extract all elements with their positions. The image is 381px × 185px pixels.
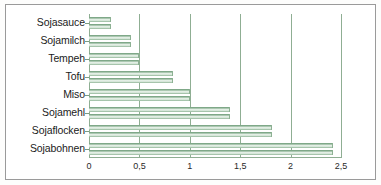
- category-label-sojamilch: Sojamilch: [40, 34, 85, 46]
- bar-tofu: [89, 71, 173, 76]
- x-tick-label-0-5: 0,5: [133, 161, 146, 171]
- x-axis-baseline: [89, 157, 341, 158]
- bar-miso: [89, 89, 190, 94]
- category-label-miso: Miso: [63, 88, 85, 100]
- category-label-tempeh: Tempeh: [48, 52, 85, 64]
- bar-miso: [89, 96, 190, 101]
- category-label-sojabohnen: Sojabohnen: [30, 142, 85, 154]
- bar-sojaflocken: [89, 125, 272, 130]
- category-label-tofu: Tofu: [66, 70, 85, 82]
- gridline-2-5: [341, 14, 342, 158]
- bar-sojamehl: [89, 114, 230, 119]
- bar-sojamilch: [89, 42, 131, 47]
- bar-sojamehl: [89, 107, 230, 112]
- bar-tempeh: [89, 60, 139, 65]
- category-label-sojaflocken: Sojaflocken: [32, 124, 85, 136]
- bar-chart-figure: SojasauceSojamilchTempehTofuMisoSojamehl…: [0, 0, 381, 185]
- bar-sojasauce: [89, 17, 111, 22]
- x-tick-label-1-5: 1,5: [234, 161, 247, 171]
- bar-sojabohnen: [89, 150, 333, 155]
- x-tick-label-2-5: 2,5: [335, 161, 348, 171]
- category-label-sojamehl: Sojamehl: [42, 106, 85, 118]
- x-tick-label-2: 2: [288, 161, 293, 171]
- x-tick-label-1: 1: [187, 161, 192, 171]
- bar-sojamilch: [89, 35, 131, 40]
- bar-tofu: [89, 78, 173, 83]
- bar-sojaflocken: [89, 132, 272, 137]
- gridline-2: [291, 14, 292, 158]
- bar-tempeh: [89, 53, 139, 58]
- category-label-sojasauce: Sojasauce: [37, 16, 85, 28]
- plot-area: [89, 14, 341, 158]
- bar-sojabohnen: [89, 143, 333, 148]
- bar-sojasauce: [89, 24, 111, 29]
- x-tick-label-0: 0: [86, 161, 91, 171]
